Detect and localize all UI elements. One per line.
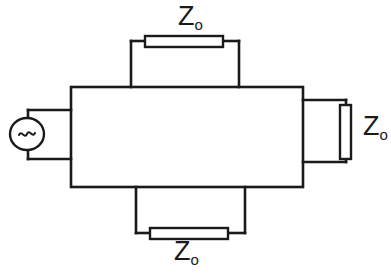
right-load-label: Zo <box>363 113 388 142</box>
wiring-group <box>28 41 346 233</box>
bottom-load-label-subscript: o <box>191 251 199 268</box>
bottom-load-label: Zo <box>174 238 199 267</box>
top-load-label-subscript: o <box>195 16 203 33</box>
top-load-label: Zo <box>178 3 203 32</box>
right-load-resistor <box>340 105 351 159</box>
top-load-label-base: Z <box>178 1 195 31</box>
bottom-load-label-base: Z <box>174 236 191 266</box>
right-load-label-subscript: o <box>380 126 388 143</box>
circuit-diagram-canvas: Zo Zo Zo <box>0 0 391 275</box>
central-network-box <box>71 87 303 187</box>
circuit-schematic <box>0 0 391 275</box>
top-load-resistor <box>145 36 223 47</box>
right-load-label-base: Z <box>363 111 380 141</box>
